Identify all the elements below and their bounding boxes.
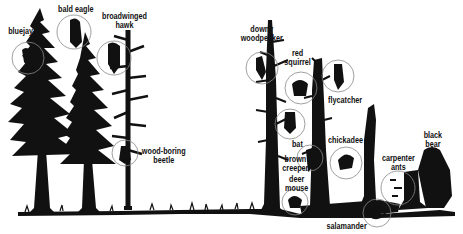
label-downy-woodpecker: downy woodpecker (241, 25, 283, 43)
label-brown-creeper: brown creeper (282, 155, 308, 173)
label-flycatcher: flycatcher (328, 96, 362, 105)
label-salamander: salamander (327, 222, 367, 231)
label-broadwinged-hawk: broadwinged hawk (102, 12, 147, 30)
red-squirrel-icon (292, 80, 308, 96)
label-black-bear: black bear (424, 131, 442, 149)
snag-tree-1 (256, 20, 288, 212)
bald-eagle-icon (70, 18, 82, 48)
label-bald-eagle: bald eagle (58, 5, 93, 14)
label-bluejay: bluejay (8, 27, 33, 36)
label-wood-boring-beetle: wood-boring beetle (142, 147, 186, 165)
bat-icon (284, 112, 296, 134)
conifer-tree-2 (60, 32, 116, 212)
deer-mouse-icon (288, 196, 302, 208)
label-carpenter-ants: carpenter ants (382, 154, 415, 172)
label-chickadee: chickadee (328, 136, 363, 145)
downy-woodpecker-icon (256, 56, 266, 80)
forest-habitat-illustration (0, 0, 463, 234)
chickadee-icon (338, 154, 354, 170)
label-red-squirrel: red squirrel (284, 49, 311, 67)
label-deer-mouse: deer mouse (285, 175, 308, 193)
broadwinged-hawk-icon (108, 42, 120, 74)
snag-tree-3 (360, 104, 380, 206)
flycatcher-icon (334, 64, 344, 90)
conifer-tree-1 (8, 8, 80, 212)
label-bat: bat (292, 140, 303, 149)
black-bear-icon (418, 147, 452, 208)
carpenter-ants-icon (390, 180, 402, 196)
